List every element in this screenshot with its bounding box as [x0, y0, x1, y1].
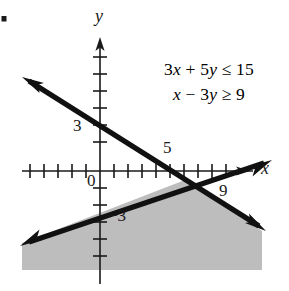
inequality-graph-figure: y x 0 3 −3 5 9 3x + 5y ≤ 15 x − 3y ≥ 9 — [0, 0, 289, 291]
y-axis-label: y — [95, 6, 103, 27]
y-tick-label-3: 3 — [73, 116, 82, 136]
inequality-system-annotation: 3x + 5y ≤ 15 x − 3y ≥ 9 — [139, 57, 279, 107]
inequality-second: x − 3y ≥ 9 — [139, 82, 279, 107]
inequality-second-text: x − 3y ≥ 9 — [173, 84, 245, 104]
inequality-first-text: 3x + 5y ≤ 15 — [164, 59, 254, 79]
inequality-first: 3x + 5y ≤ 15 — [139, 57, 279, 82]
x-axis-label: x — [261, 158, 269, 179]
y-tick-label-negative-3: −3 — [108, 206, 126, 226]
filled-square-bullet-icon — [2, 16, 7, 22]
origin-label: 0 — [87, 171, 96, 191]
x-tick-label-9: 9 — [219, 181, 228, 201]
x-tick-label-5: 5 — [163, 138, 172, 158]
graph-canvas — [0, 0, 289, 291]
